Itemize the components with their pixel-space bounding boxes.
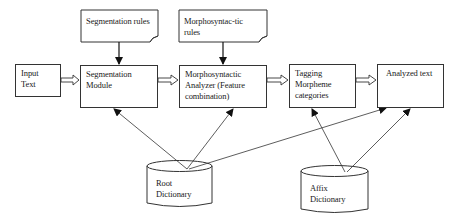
morphosyntactic-rules-label-1: Morphosyntac-tic <box>184 16 262 27</box>
arrow-root-to-analyzed <box>189 108 386 169</box>
input-text-node: Input Text <box>15 64 61 97</box>
segmentation-module-label-1: Segmentation <box>86 69 152 80</box>
tagging-label-3: categories <box>295 90 350 101</box>
hollow-arrow-tagging-to-analyzed <box>356 75 376 85</box>
hollow-arrow-seg-to-analyzer <box>158 75 178 85</box>
analyzer-label-3: combination) <box>185 91 261 102</box>
analyzed-text-label: Analyzed text <box>386 68 438 79</box>
input-text-label-2: Text <box>21 79 55 90</box>
morphosyntactic-rules-label-2: rules <box>184 27 262 38</box>
analyzer-label-1: Morphosyntactic <box>185 69 261 80</box>
arrow-root-to-segmodule <box>114 109 187 169</box>
hollow-arrow-analyzer-to-tagging <box>267 75 288 85</box>
root-dictionary-label-1: Root <box>156 178 207 189</box>
analyzer-label-2: Analyzer (Feature <box>185 80 261 91</box>
morphosyntactic-analyzer-node: Morphosyntactic Analyzer (Feature combin… <box>179 65 267 108</box>
affix-dictionary-label-2: Dictionary <box>310 194 363 205</box>
tagging-node: Tagging Morpheme categories <box>289 64 356 108</box>
tagging-label-2: Morpheme <box>295 79 350 90</box>
segmentation-rules-node: Segmentation rules <box>81 10 158 42</box>
segmentation-module-node: Segmentation Module <box>80 65 158 108</box>
segmentation-module-label-2: Module <box>86 80 152 91</box>
segmentation-rules-label: Segmentation rules <box>86 16 153 27</box>
hollow-arrow-input-to-seg <box>61 75 79 85</box>
morphosyntactic-rules-node: Morphosyntac-tic rules <box>179 10 267 42</box>
arrow-affix-to-analyzed <box>347 109 410 172</box>
arrow-root-to-analyzer <box>187 109 233 169</box>
tagging-label-1: Tagging <box>295 68 350 79</box>
arrow-affix-to-tagging <box>312 109 345 172</box>
root-dictionary-node: Root Dictionary <box>147 166 212 206</box>
root-dictionary-label-2: Dictionary <box>156 189 207 200</box>
affix-dictionary-label-1: Affix <box>310 183 363 194</box>
input-text-label-1: Input <box>21 68 55 79</box>
analyzed-text-node: Analyzed text <box>377 64 444 108</box>
affix-dictionary-node: Affix Dictionary <box>301 171 368 213</box>
